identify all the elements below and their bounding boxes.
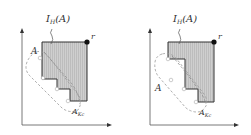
- point-r-label: r: [218, 32, 223, 41]
- ideal-region: [168, 42, 214, 102]
- ideal-label: IH(A): [172, 13, 197, 25]
- right-panel: IH(A) r A AKc: [148, 13, 239, 127]
- ideal-label: IH(A): [45, 13, 70, 25]
- point-r-dot: [211, 39, 216, 44]
- y-axis-arrow-icon: [20, 28, 24, 33]
- set-AKc-label: AKc: [198, 108, 212, 118]
- y-axis-arrow-icon: [148, 28, 152, 33]
- point-marker: [55, 87, 59, 91]
- point-marker: [194, 100, 198, 104]
- point-r-dot: [84, 39, 89, 44]
- point-marker: [166, 57, 170, 61]
- point-marker: [169, 78, 173, 82]
- set-A-label: A: [154, 83, 162, 93]
- x-axis-arrow-icon: [234, 123, 239, 127]
- set-AKc-label: AKc: [71, 107, 85, 117]
- point-marker: [66, 99, 70, 103]
- point-marker: [182, 87, 186, 91]
- point-r-label: r: [91, 32, 96, 41]
- x-axis-arrow-icon: [107, 123, 112, 127]
- set-A-label: A: [30, 46, 38, 56]
- diagram-canvas: IH(A) r A AKc IH(A) r A AKc: [0, 0, 251, 135]
- ideal-region: [42, 42, 87, 101]
- left-panel: IH(A) r A AKc: [20, 13, 112, 127]
- point-marker: [38, 56, 42, 60]
- point-marker: [41, 76, 45, 80]
